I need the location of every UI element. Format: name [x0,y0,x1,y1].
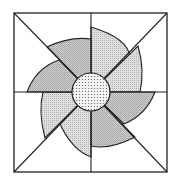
center-circle [72,73,110,111]
pinwheel-quilt-block [0,0,177,185]
